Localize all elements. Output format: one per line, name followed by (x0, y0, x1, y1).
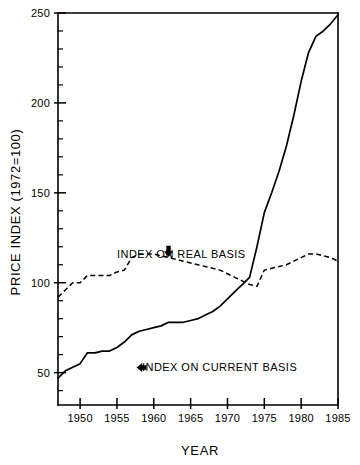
x-tick-label: 1985 (325, 412, 350, 424)
y-axis-tick-labels: 50100150200250 (31, 7, 50, 379)
y-tick-label: 100 (31, 277, 50, 289)
annotation-real-basis-text: INDEX ON REAL BASIS (117, 248, 246, 260)
x-axis-title: YEAR (181, 443, 219, 458)
y-axis-title: PRICE INDEX (1972=100) (8, 129, 23, 296)
x-axis-ticks (80, 398, 338, 409)
price-index-line-chart: 50100150200250 1950195519601965197019751… (0, 0, 360, 465)
annotation-current-basis: INDEX ON CURRENT BASIS (137, 361, 298, 373)
series-index-on-real-basis (58, 254, 338, 297)
chart-page: 50100150200250 1950195519601965197019751… (0, 0, 360, 465)
y-tick-label: 150 (31, 187, 50, 199)
y-axis-ticks (54, 13, 66, 391)
x-tick-label: 1950 (67, 412, 92, 424)
x-tick-label: 1960 (141, 412, 166, 424)
data-series-group (58, 15, 338, 378)
plot-axes (58, 13, 338, 405)
x-tick-label: 1975 (252, 412, 277, 424)
x-tick-label: 1955 (104, 412, 129, 424)
x-tick-label: 1965 (178, 412, 203, 424)
y-tick-label: 50 (37, 367, 50, 379)
annotation-real-basis: INDEX ON REAL BASIS (117, 246, 246, 260)
y-tick-label: 250 (31, 7, 50, 19)
x-tick-label: 1970 (215, 412, 240, 424)
x-axis-tick-labels: 19501955196019651970197519801985 (67, 412, 350, 424)
x-tick-label: 1980 (289, 412, 314, 424)
annotation-current-basis-text: INDEX ON CURRENT BASIS (142, 361, 297, 373)
series-index-on-current-basis (58, 15, 338, 378)
y-tick-label: 200 (31, 97, 50, 109)
